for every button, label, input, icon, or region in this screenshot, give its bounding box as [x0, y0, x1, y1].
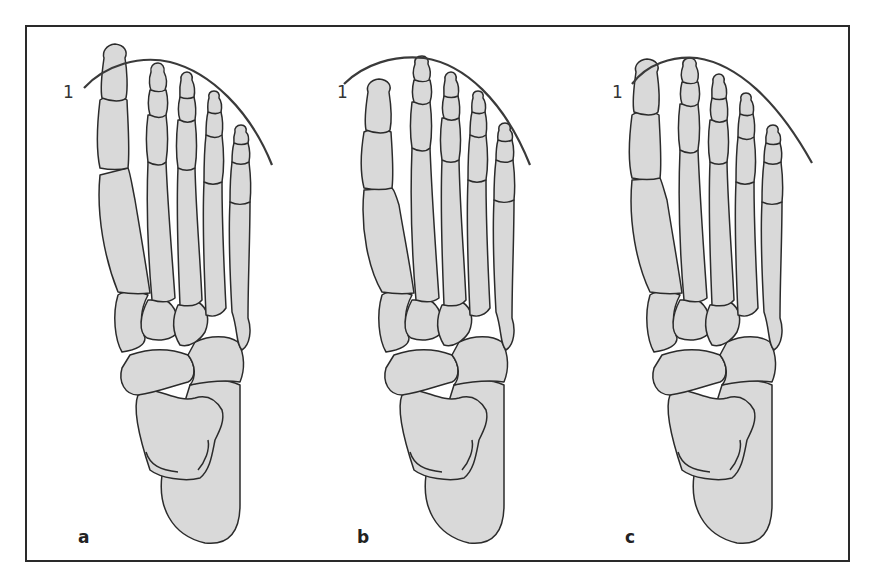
panel-label-b: b	[357, 527, 369, 547]
curve-label-c: 1	[612, 82, 623, 102]
panel-label-a: a	[78, 527, 89, 547]
foot-c	[629, 58, 812, 544]
curve-label-b: 1	[337, 82, 348, 102]
foot-b	[344, 56, 530, 543]
curve-label-a: 1	[63, 82, 74, 102]
figure: 1 1 1 a b c	[0, 0, 870, 577]
feet-illustration	[0, 0, 870, 577]
panel-label-c: c	[625, 527, 635, 547]
foot-a	[84, 44, 272, 543]
